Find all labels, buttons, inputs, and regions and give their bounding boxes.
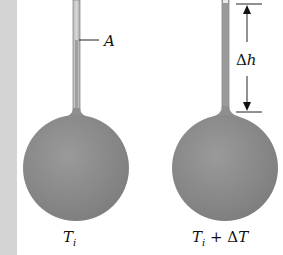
right-temp-label: Ti + ΔT <box>192 228 249 248</box>
right-thermometer: Δh Ti + ΔT <box>172 0 278 248</box>
left-bulb <box>23 115 129 221</box>
left-temp-label: Ti <box>63 228 76 248</box>
arrow-down-icon <box>243 102 251 111</box>
left-stem-fluid <box>75 40 78 112</box>
thermal-expansion-diagram: A Ti Δh Ti + ΔT <box>0 0 283 255</box>
left-thermometer: A Ti <box>23 0 129 248</box>
arrow-up-icon <box>243 5 251 14</box>
right-stem-tube <box>222 0 229 112</box>
height-change-label: Δh <box>236 51 257 69</box>
height-change-dimension: Δh <box>236 4 262 112</box>
right-stem-top-gap <box>223 0 228 3</box>
level-a-label: A <box>102 32 115 50</box>
right-bulb <box>172 115 278 221</box>
